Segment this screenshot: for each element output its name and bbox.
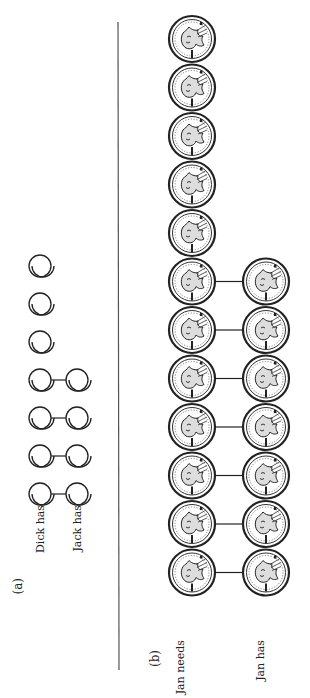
matching-diagram: (a)Dick hasJack has(b)Jan needsJan has [0, 0, 310, 698]
penny-icon [169, 501, 215, 547]
counter-icon [66, 445, 91, 467]
counter-icon [29, 483, 54, 505]
jack-has-label: Jack has [71, 505, 84, 553]
penny-icon [243, 356, 289, 402]
penny-icon [243, 307, 289, 353]
penny-icon [169, 113, 215, 159]
penny-icon [169, 307, 215, 353]
counter-icon [66, 407, 91, 429]
penny-icon [169, 356, 215, 402]
penny-icon [169, 404, 215, 450]
part-a-counters [29, 255, 91, 505]
counter-icon [29, 445, 54, 467]
penny-icon [243, 550, 289, 596]
jan-needs-label: Jan needs [174, 640, 187, 696]
part-b-label: (b) [148, 650, 162, 667]
dick-has-label: Dick has [34, 505, 47, 553]
jan-has-label: Jan has [254, 640, 267, 682]
penny-icon [169, 210, 215, 256]
counter-icon [66, 483, 91, 505]
labels: (a)Dick hasJack has(b)Jan needsJan has [11, 505, 267, 696]
penny-icon [169, 453, 215, 499]
penny-icon [243, 501, 289, 547]
penny-icon [243, 453, 289, 499]
penny-icon [169, 259, 215, 305]
penny-icon [243, 259, 289, 305]
penny-icon [243, 404, 289, 450]
counter-icon [29, 369, 54, 391]
counter-icon [66, 369, 91, 391]
penny-icon [169, 65, 215, 111]
counter-icon [29, 255, 54, 277]
part-a-label: (a) [11, 578, 25, 595]
counter-icon [29, 407, 54, 429]
penny-icon [169, 162, 215, 208]
divider-line [118, 22, 119, 670]
counter-icon [29, 293, 54, 315]
part-b-pennies [169, 16, 289, 596]
counter-icon [29, 331, 54, 353]
penny-icon [169, 16, 215, 62]
penny-icon [169, 550, 215, 596]
